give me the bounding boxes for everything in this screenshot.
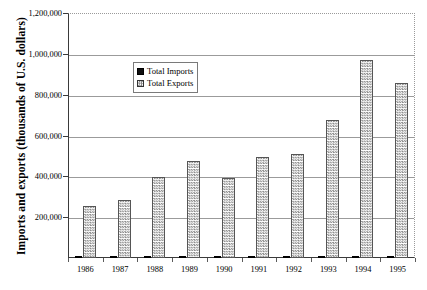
bar-total-imports — [352, 256, 359, 258]
bar-total-exports — [256, 157, 269, 258]
y-tick-label: 800,000 — [2, 90, 62, 99]
y-tick-label: 1,200,000 — [2, 9, 62, 18]
x-tick-mark — [207, 258, 208, 262]
bar-total-exports — [326, 120, 339, 258]
legend-item: Total Imports — [137, 65, 193, 77]
bars-layer — [68, 13, 415, 258]
bar-group — [103, 13, 138, 258]
bar-group — [346, 13, 381, 258]
legend-item: Total Exports — [137, 77, 193, 89]
y-tick-label: 200,000 — [2, 213, 62, 222]
bar-total-exports — [118, 200, 131, 258]
x-tick-mark — [276, 258, 277, 262]
x-tick-mark — [103, 258, 104, 262]
x-tick-mark — [311, 258, 312, 262]
x-tick-mark — [346, 258, 347, 262]
bar-total-imports — [387, 256, 394, 258]
bar-total-imports — [144, 256, 151, 258]
chart-legend: Total ImportsTotal Exports — [133, 62, 198, 93]
x-tick-label: 1995 — [378, 265, 418, 274]
legend-label: Total Exports — [147, 78, 193, 88]
bar-total-exports — [83, 206, 96, 258]
legend-swatch-exports-icon — [137, 80, 144, 87]
bar-total-imports — [283, 256, 290, 258]
x-tick-mark — [172, 258, 173, 262]
y-tick-label: 600,000 — [2, 131, 62, 140]
bar-total-imports — [110, 256, 117, 258]
x-tick-mark — [380, 258, 381, 262]
bar-total-exports — [291, 154, 304, 258]
bar-group — [172, 13, 207, 258]
bar-group — [380, 13, 415, 258]
bar-group — [137, 13, 172, 258]
bar-total-exports — [187, 161, 200, 258]
bar-total-exports — [360, 60, 373, 258]
bar-group — [207, 13, 242, 258]
bar-total-exports — [222, 178, 235, 258]
bar-total-imports — [318, 256, 325, 258]
x-tick-mark — [68, 258, 69, 262]
bar-group — [242, 13, 277, 258]
bar-total-imports — [248, 256, 255, 258]
bar-total-imports — [75, 256, 82, 258]
bar-total-exports — [152, 177, 165, 258]
x-tick-mark — [242, 258, 243, 262]
bar-total-exports — [395, 83, 408, 258]
bar-chart: Imports and exports (thousands of U.S. d… — [0, 0, 427, 290]
bar-total-imports — [179, 256, 186, 258]
legend-label: Total Imports — [147, 66, 193, 76]
x-tick-mark — [415, 258, 416, 262]
x-tick-mark — [137, 258, 138, 262]
bar-group — [276, 13, 311, 258]
legend-swatch-imports-icon — [137, 68, 144, 75]
bar-total-imports — [214, 256, 221, 258]
y-tick-label: 1,000,000 — [2, 49, 62, 58]
bar-group — [311, 13, 346, 258]
y-tick-label: 400,000 — [2, 172, 62, 181]
bar-group — [68, 13, 103, 258]
